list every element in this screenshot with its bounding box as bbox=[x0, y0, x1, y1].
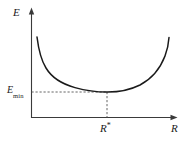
rstar-tick-label: R* bbox=[100, 121, 111, 134]
emin-subscript: min bbox=[13, 92, 23, 99]
potential-energy-curve bbox=[37, 37, 169, 92]
y-axis-arrow-icon bbox=[29, 8, 34, 15]
y-axis-label: E bbox=[13, 7, 20, 18]
rstar-superscript: * bbox=[107, 121, 111, 130]
x-axis-label: R bbox=[171, 123, 178, 134]
plot-canvas bbox=[0, 0, 189, 141]
potential-energy-figure: E R Emin R* bbox=[0, 0, 189, 141]
emin-tick-label: Emin bbox=[7, 85, 24, 98]
x-axis-arrow-icon bbox=[171, 115, 178, 120]
rstar-base: R bbox=[100, 122, 107, 134]
